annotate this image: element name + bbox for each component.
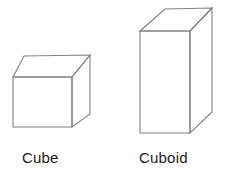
cube-right-face (72, 55, 90, 127)
cuboid-figure (140, 8, 212, 133)
cube-front-face (13, 77, 72, 127)
cuboid-label: Cuboid (139, 150, 188, 165)
cube-top-face (13, 55, 90, 77)
shapes-illustration (0, 0, 229, 173)
cuboid-right-face (190, 8, 212, 133)
cube-label: Cube (22, 150, 59, 165)
cuboid-front-face (140, 31, 190, 133)
cube-figure (13, 55, 90, 127)
